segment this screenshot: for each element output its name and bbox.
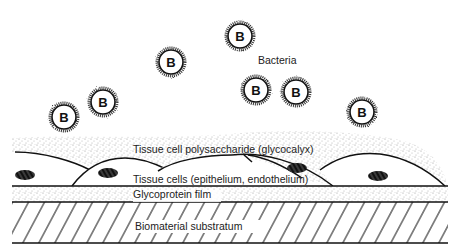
svg-text:B: B bbox=[357, 105, 366, 120]
svg-text:B: B bbox=[291, 85, 300, 100]
label-tissue-cells: Tissue cells (epithelium, endothelium) bbox=[133, 173, 308, 185]
svg-text:B: B bbox=[251, 83, 260, 98]
bacterium: B bbox=[157, 48, 185, 76]
biofilm-diagram: Bacteria Tissue cell polysaccharide (gly… bbox=[0, 0, 461, 251]
label-glycoprotein-film: Glycoprotein film bbox=[133, 188, 211, 200]
svg-text:B: B bbox=[166, 55, 175, 70]
bacterium: B bbox=[50, 103, 78, 131]
svg-text:B: B bbox=[98, 95, 107, 110]
bacterium: B bbox=[282, 78, 310, 106]
bacterium: B bbox=[242, 76, 270, 104]
label-biomaterial-substratum: Biomaterial substratum bbox=[135, 220, 243, 232]
bacterium: B bbox=[226, 22, 254, 50]
bacterium: B bbox=[348, 98, 376, 126]
label-glycocalyx: Tissue cell polysaccharide (glycocalyx) bbox=[133, 143, 314, 155]
svg-text:B: B bbox=[59, 110, 68, 125]
label-bacteria: Bacteria bbox=[258, 54, 297, 66]
glycoprotein-film bbox=[12, 186, 448, 202]
svg-text:B: B bbox=[235, 29, 244, 44]
bacterium: B bbox=[89, 88, 117, 116]
bacteria-group: B B B B B B B bbox=[50, 22, 376, 131]
